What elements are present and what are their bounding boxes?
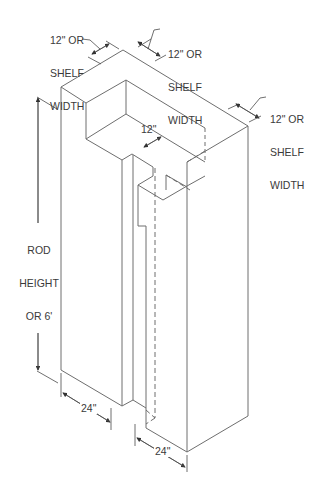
label-line: SHELF — [50, 68, 84, 79]
label-line: HEIGHT — [19, 278, 59, 289]
dimension-inner-gap — [144, 137, 161, 147]
dimension-top-mid — [138, 29, 166, 61]
label-right-width: 24" — [154, 446, 171, 457]
label-line: WIDTH — [270, 180, 304, 191]
label-top-mid-depth: 12" OR SHELF WIDTH — [168, 27, 202, 137]
label-line: OR 6' — [19, 311, 59, 322]
label-line: ROD — [19, 245, 59, 256]
label-line: 12" OR — [270, 114, 304, 125]
label-height: ROD HEIGHT OR 6' — [19, 223, 59, 333]
label-line: SHELF — [270, 147, 304, 158]
label-line: WIDTH — [50, 101, 84, 112]
dimension-top-left — [82, 39, 119, 64]
label-line: 12" OR — [168, 49, 202, 60]
label-left-width: 24" — [80, 403, 97, 414]
label-inner-gap: 12" — [141, 124, 156, 135]
label-top-left-depth: 12" OR SHELF WIDTH — [50, 13, 84, 123]
label-line: WIDTH — [168, 115, 202, 126]
dimension-right — [228, 97, 266, 122]
label-line: SHELF — [168, 82, 202, 93]
label-right-depth: 12" OR SHELF WIDTH — [270, 92, 304, 202]
label-line: 12" OR — [50, 35, 84, 46]
